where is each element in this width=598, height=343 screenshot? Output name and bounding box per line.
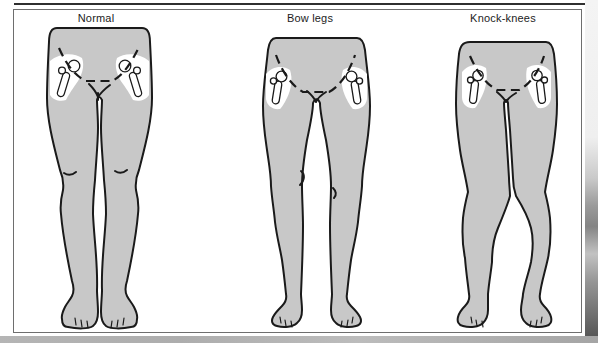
legs-illustration — [0, 0, 598, 343]
page-bottom-strip — [0, 336, 598, 343]
bow-legs-figure — [263, 38, 370, 327]
knock-knees-figure — [456, 42, 557, 327]
scanned-figure-page: Normal Bow legs Knock-knees — [0, 0, 598, 343]
normal-legs-figure — [47, 28, 152, 328]
page-edge-shadow — [585, 0, 598, 343]
